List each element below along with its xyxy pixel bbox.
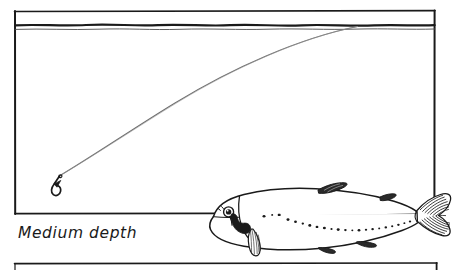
fishing-depth-illustration: Medium depth xyxy=(0,0,456,270)
depth-caption: Medium depth xyxy=(18,224,137,242)
illustration-page: Medium depth xyxy=(0,0,456,270)
